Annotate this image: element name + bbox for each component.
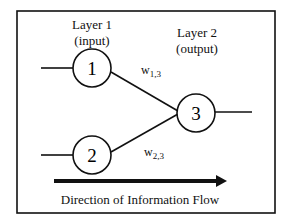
network-diagram: 1 2 3 (0, 0, 290, 222)
node-1-label: 1 (87, 58, 97, 79)
weight-1-3: w1,3 (141, 63, 161, 79)
layer-1-title: Layer 1 (62, 17, 122, 33)
layer-2-header: Layer 2 (output) (165, 25, 229, 57)
weight-2-3-base: w (144, 145, 153, 159)
weight-2-3: w2,3 (144, 145, 164, 161)
node-3-label: 3 (191, 103, 201, 124)
node-2-label: 2 (87, 145, 97, 166)
layer-1-subtitle: (input) (62, 33, 122, 49)
weight-1-3-sub: 1,3 (150, 69, 161, 79)
weight-2-3-sub: 2,3 (153, 151, 164, 161)
layer-1-header: Layer 1 (input) (62, 17, 122, 49)
layer-2-subtitle: (output) (165, 41, 229, 57)
weight-1-3-base: w (141, 63, 150, 77)
flow-arrow-head-icon (216, 175, 227, 187)
flow-label: Direction of Information Flow (40, 192, 240, 208)
layer-2-title: Layer 2 (165, 25, 229, 41)
